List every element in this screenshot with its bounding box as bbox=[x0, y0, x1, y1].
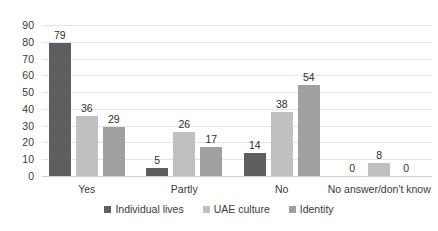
y-tick-label-90: 90 bbox=[8, 20, 34, 31]
legend-label: UAE culture bbox=[214, 204, 270, 215]
gridline-20 bbox=[42, 142, 432, 143]
bar-value-label: 38 bbox=[276, 99, 288, 110]
y-tick-label-0: 0 bbox=[8, 171, 34, 182]
gridline-30 bbox=[42, 126, 432, 127]
x-axis-label: No bbox=[275, 184, 288, 196]
y-tick-label-80: 80 bbox=[8, 37, 34, 48]
bar bbox=[368, 163, 390, 176]
bar bbox=[244, 153, 266, 176]
bar-value-label: 29 bbox=[108, 114, 120, 125]
bar bbox=[76, 116, 98, 176]
legend-item[interactable]: Individual lives bbox=[104, 204, 183, 215]
y-tick-label-50: 50 bbox=[8, 87, 34, 98]
bar-value-label: 17 bbox=[205, 134, 217, 145]
legend-label: Identity bbox=[300, 204, 334, 215]
y-tick-label-40: 40 bbox=[8, 104, 34, 115]
bar bbox=[271, 112, 293, 176]
bar-chart: 9080706050403020100 79362952617143854080… bbox=[0, 0, 438, 231]
gridline-90 bbox=[42, 25, 432, 26]
bar-value-label: 26 bbox=[178, 119, 190, 130]
bar bbox=[173, 132, 195, 176]
y-tick-label-30: 30 bbox=[8, 120, 34, 131]
legend-swatch-icon bbox=[203, 206, 210, 213]
legend-swatch-icon bbox=[289, 206, 296, 213]
bar-value-label: 8 bbox=[376, 150, 382, 161]
gridline-10 bbox=[42, 159, 432, 160]
gridline-40 bbox=[42, 109, 432, 110]
gridline-60 bbox=[42, 75, 432, 76]
x-axis-label: No answer/don't know bbox=[328, 184, 431, 196]
x-axis-label: Yes bbox=[78, 184, 95, 196]
bar-value-label: 36 bbox=[81, 103, 93, 114]
bar bbox=[103, 127, 125, 176]
bar-value-label: 54 bbox=[303, 72, 315, 83]
gridline-0 bbox=[42, 176, 432, 177]
legend-item[interactable]: Identity bbox=[289, 204, 334, 215]
bar bbox=[49, 43, 71, 176]
bar-value-label: 79 bbox=[54, 30, 66, 41]
legend-item[interactable]: UAE culture bbox=[203, 204, 270, 215]
bar bbox=[146, 168, 168, 176]
bar bbox=[298, 85, 320, 176]
gridline-80 bbox=[42, 42, 432, 43]
plot-area bbox=[42, 25, 432, 176]
bar-value-label: 0 bbox=[403, 163, 409, 174]
chart-legend: Individual livesUAE cultureIdentity bbox=[0, 204, 438, 215]
x-axis-label: Partly bbox=[171, 184, 198, 196]
gridline-50 bbox=[42, 92, 432, 93]
legend-swatch-icon bbox=[104, 206, 111, 213]
y-tick-label-10: 10 bbox=[8, 154, 34, 165]
gridline-70 bbox=[42, 59, 432, 60]
bar-value-label: 0 bbox=[349, 163, 355, 174]
legend-label: Individual lives bbox=[115, 204, 183, 215]
y-tick-label-60: 60 bbox=[8, 70, 34, 81]
bar bbox=[200, 147, 222, 176]
bar-value-label: 14 bbox=[249, 140, 261, 151]
bar-value-label: 5 bbox=[154, 155, 160, 166]
y-tick-label-20: 20 bbox=[8, 137, 34, 148]
y-tick-label-70: 70 bbox=[8, 53, 34, 64]
